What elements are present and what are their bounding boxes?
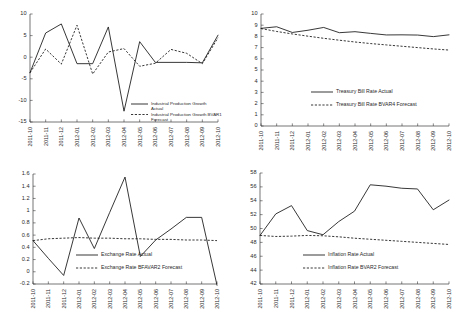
x-tick-label: 2012-09 xyxy=(430,131,436,151)
y-tick-label: 0.4 xyxy=(22,244,30,250)
series-line-forecast xyxy=(33,238,217,241)
y-tick-label: 0 xyxy=(26,268,29,274)
y-tick-label: 10 xyxy=(251,10,257,16)
x-tick-label: 2012-05 xyxy=(367,289,373,309)
x-tick-label: 2012-02 xyxy=(321,131,327,151)
x-tick-label: 2012-06 xyxy=(153,289,159,309)
x-tick-label: 2012-03 xyxy=(336,131,342,151)
x-tick-label: 2012-09 xyxy=(199,289,205,309)
series-line-actual xyxy=(261,27,449,37)
x-tick-label: 2012-05 xyxy=(137,289,143,309)
x-tick-label: 2012-01 xyxy=(304,289,310,309)
x-tick-label: 2011-10 xyxy=(30,289,36,308)
x-tick-label: 2012-10 xyxy=(446,131,452,151)
series-line-forecast xyxy=(260,235,449,244)
series-line-forecast xyxy=(30,25,218,74)
y-tick-label: 3 xyxy=(254,89,257,95)
figure-panel-grid: 1050-5-10-152011-102011-112011-122012-01… xyxy=(0,0,461,327)
x-tick-label: 2012-10 xyxy=(446,289,452,309)
y-tick-label: 56 xyxy=(250,183,256,189)
x-tick-label: 2012-02 xyxy=(90,127,96,147)
x-tick-label: 2011-12 xyxy=(61,289,67,308)
x-tick-label: 2012-06 xyxy=(383,131,389,151)
x-tick-label: 2012-03 xyxy=(336,289,342,309)
x-tick-label: 2012-07 xyxy=(399,289,405,309)
x-tick-label: 2012-07 xyxy=(168,289,174,309)
y-tick-label: 7 xyxy=(254,44,257,50)
y-tick-label: 48 xyxy=(250,239,256,245)
x-tick-label: 2012-06 xyxy=(383,289,389,309)
legend-label: Exchange Rate BFAVAR2 Forecast xyxy=(101,264,183,270)
x-tick-label: 2011-12 xyxy=(289,131,295,150)
chart-exchange-rate: 1.61.41.210.80.60.40.20-0.22011-102011-1… xyxy=(0,164,230,327)
x-tick-label: 2011-11 xyxy=(274,131,280,150)
x-tick-label: 2011-11 xyxy=(273,289,279,308)
legend-label-cont: Actual xyxy=(151,106,163,111)
x-tick-label: 2012-04 xyxy=(121,127,127,147)
x-tick-label: 2012-10 xyxy=(214,289,220,309)
legend-label: Exchange Rate Actual xyxy=(101,251,152,257)
x-tick-label: 2012-10 xyxy=(215,127,221,147)
legend-label: Treasury Bill Rate BVAR4 Forecast xyxy=(336,101,417,107)
legend-label-cont: Forecast xyxy=(151,117,169,122)
x-tick-label: 2012-09 xyxy=(199,127,205,147)
y-tick-label: 1.2 xyxy=(22,195,30,201)
legend-label: Treasury Bill Rate Actual xyxy=(336,88,393,94)
x-tick-label: 2011-11 xyxy=(45,289,51,308)
x-tick-label: 2011-12 xyxy=(289,289,295,308)
y-tick-label: 42 xyxy=(250,280,256,286)
x-tick-label: 2012-03 xyxy=(105,127,111,147)
y-tick-label: 44 xyxy=(250,267,256,273)
y-tick-label: 46 xyxy=(250,253,256,259)
y-tick-label: 1 xyxy=(254,111,257,117)
x-tick-label: 2011-12 xyxy=(58,127,64,146)
y-tick-label: 0.8 xyxy=(22,219,30,225)
panel-exchange-rate: 1.61.41.210.80.60.40.20-0.22011-102011-1… xyxy=(0,164,230,327)
x-tick-label: 2011-10 xyxy=(258,131,264,150)
x-tick-label: 2012-04 xyxy=(122,289,128,309)
x-tick-label: 2012-08 xyxy=(415,289,421,309)
y-tick-label: 1.6 xyxy=(22,170,30,176)
x-tick-label: 2012-02 xyxy=(91,289,97,309)
x-tick-label: 2012-05 xyxy=(137,127,143,147)
y-tick-label: 5 xyxy=(254,66,257,72)
series-line-actual xyxy=(30,24,218,111)
y-tick-label: -0.2 xyxy=(20,280,30,286)
x-tick-label: 2012-08 xyxy=(183,289,189,309)
panel-industrial-production-growth: 1050-5-10-152011-102011-112011-122012-01… xyxy=(0,0,230,164)
y-tick-label: 6 xyxy=(254,55,257,61)
y-tick-label: -15 xyxy=(18,118,26,124)
x-tick-label: 2012-04 xyxy=(352,289,358,309)
y-tick-label: 2 xyxy=(254,100,257,106)
x-tick-label: 2011-10 xyxy=(27,127,33,146)
x-tick-label: 2012-06 xyxy=(152,127,158,147)
x-tick-label: 2012-07 xyxy=(168,127,174,147)
y-tick-label: 1.4 xyxy=(22,183,30,189)
legend-label: Inflation Rate Actual xyxy=(328,251,374,257)
panel-treasury-bill-rate: 1098765432102011-102011-112011-122012-01… xyxy=(230,0,461,164)
x-tick-label: 2012-07 xyxy=(399,131,405,151)
legend-label: Inflation Rate BVAR2 Forecast xyxy=(328,264,399,270)
y-tick-label: 0.6 xyxy=(22,232,30,238)
y-tick-label: 0 xyxy=(23,54,26,60)
x-tick-label: 2012-04 xyxy=(352,131,358,151)
y-tick-label: 58 xyxy=(250,169,256,175)
x-tick-label: 2012-05 xyxy=(368,131,374,151)
y-tick-label: 0 xyxy=(254,122,257,128)
x-tick-label: 2012-08 xyxy=(184,127,190,147)
series-line-actual xyxy=(260,185,449,236)
y-tick-label: 9 xyxy=(254,22,257,28)
chart-inflation-rate: 5856545250484644422011-102011-112011-122… xyxy=(230,164,461,327)
x-tick-label: 2011-11 xyxy=(43,127,49,146)
x-tick-label: 2012-01 xyxy=(76,289,82,309)
y-tick-label: 0.2 xyxy=(22,256,30,262)
chart-industrial-production-growth: 1050-5-10-152011-102011-112011-122012-01… xyxy=(0,0,230,164)
y-tick-label: 50 xyxy=(250,225,256,231)
y-tick-label: 52 xyxy=(250,211,256,217)
x-tick-label: 2012-01 xyxy=(305,131,311,151)
panel-inflation-rate: 5856545250484644422011-102011-112011-122… xyxy=(230,164,461,327)
y-tick-label: 4 xyxy=(254,78,257,84)
y-tick-label: 10 xyxy=(20,10,26,16)
y-tick-label: -10 xyxy=(18,97,26,103)
y-tick-label: 5 xyxy=(23,32,26,38)
